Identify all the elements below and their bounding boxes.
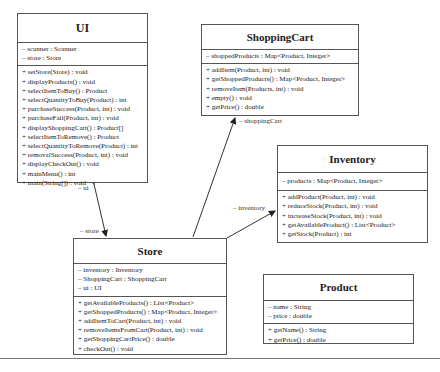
- class-title: Inventory: [278, 146, 427, 173]
- role-label-store: – store: [80, 227, 99, 235]
- operation: + purchaseSuccess(Product, int) : void: [22, 105, 143, 114]
- class-shoppingcart: ShoppingCart – shoppedProducts : Map<Pro…: [201, 24, 359, 116]
- attribute: – ui : UI: [78, 284, 222, 293]
- operation: + selectItemToBuy() : Product: [22, 87, 143, 96]
- operation: + getShoppingCartPrice() : double: [78, 335, 222, 344]
- operation: + removeItemsFromCart(Product, int) : vo…: [78, 326, 222, 335]
- class-title: Store: [74, 239, 226, 264]
- store-inventory-association: [227, 211, 275, 238]
- class-product: Product – name : String – price : double…: [263, 274, 414, 344]
- operation: + getShoppedProducts() : Map<Product, In…: [206, 75, 354, 84]
- operation: + setStore(Store) : void: [22, 68, 143, 77]
- class-ui: UI – scanner : Scanner – store : Store +…: [17, 13, 148, 183]
- operation: + purchaseFail(Product, int) : void: [22, 114, 143, 123]
- class-attributes: – inventory : Inventory – ShoppingCart :…: [74, 264, 226, 297]
- operation: + reduceStock(Product, int) : void: [282, 202, 423, 211]
- role-label-inventory: – inventory: [233, 204, 265, 212]
- attribute: – price : double: [268, 312, 409, 321]
- class-operations: + setStore(Store) : void + displayProduc…: [18, 66, 147, 190]
- operation: + selectQuantityToBuy(Product) : int: [22, 96, 143, 105]
- operation: + getStock(Product) : int: [282, 230, 423, 239]
- operation: + selectQuantityToRemove(Product) : int: [22, 142, 143, 151]
- operation: + displayProducts() : void: [22, 78, 143, 87]
- operation: + removeItem(Products, int) : void: [206, 85, 354, 94]
- operation: + empty() : void: [206, 94, 354, 103]
- attribute: – ShoppingCart : ShoppingCart: [78, 275, 222, 284]
- operation: + checkOut() : void: [78, 345, 222, 354]
- class-operations: + addItem(Product, int) : void + getShop…: [202, 64, 358, 114]
- class-operations: + getAvailableProducts() : List<Product>…: [74, 297, 226, 356]
- class-operations: + getName() : String + getPrice() : doub…: [264, 324, 413, 346]
- attribute: – shoppedProducts : Map<Product, Integer…: [206, 52, 354, 61]
- operation: + getName() : String: [268, 326, 409, 335]
- class-title: UI: [18, 14, 147, 43]
- class-title: Product: [264, 275, 413, 301]
- class-attributes: – name : String – price : double: [264, 301, 413, 324]
- operation: + addProduct(Product, int) : void: [282, 193, 423, 202]
- class-operations: + addProduct(Product, int) : void + redu…: [278, 191, 427, 241]
- store-shoppingcart-association: [193, 118, 235, 237]
- operation: + getAvailableProducts() : List<Product>: [78, 299, 222, 308]
- class-attributes: – shoppedProducts : Map<Product, Integer…: [202, 50, 358, 64]
- operation: + getShoppedProducts() : Map<Product, In…: [78, 308, 222, 317]
- operation: + displayShoppingCart() : Product[]: [22, 124, 143, 133]
- class-inventory: Inventory – products : Map<Product, Inte…: [277, 145, 428, 243]
- class-title: ShoppingCart: [202, 25, 358, 50]
- operation: + displayCheckOut() : void: [22, 160, 143, 169]
- operation: + mainMenu() : int: [22, 170, 143, 179]
- operation: + addItem(Product, int) : void: [206, 66, 354, 75]
- operation: + addItemToCart(Product, int) : void: [78, 317, 222, 326]
- operation: + removalSuccess(Product, int) : void: [22, 151, 143, 160]
- divider: [0, 358, 440, 359]
- attribute: – products : Map<Product, Integer>: [282, 177, 423, 186]
- class-attributes: – scanner : Scanner – store : Store: [18, 43, 147, 66]
- class-store: Store – inventory : Inventory – Shopping…: [73, 238, 227, 355]
- operation: + getPrice() : double: [206, 103, 354, 112]
- role-label-ui: – ui: [78, 184, 89, 192]
- operation: + getPrice() : double: [268, 336, 409, 345]
- attribute: – store : Store: [22, 54, 143, 63]
- operation: + increaseStock(Product, int) : void: [282, 212, 423, 221]
- operation: + getAvailableProduct() : List<Product>: [282, 221, 423, 230]
- attribute: – scanner : Scanner: [22, 45, 143, 54]
- attribute: – inventory : Inventory: [78, 266, 222, 275]
- class-attributes: – products : Map<Product, Integer>: [278, 173, 427, 191]
- operation: + selectItemToRemove() : Product: [22, 133, 143, 142]
- attribute: – name : String: [268, 303, 409, 312]
- role-label-shoppingcart: – shoppingCart: [239, 117, 282, 125]
